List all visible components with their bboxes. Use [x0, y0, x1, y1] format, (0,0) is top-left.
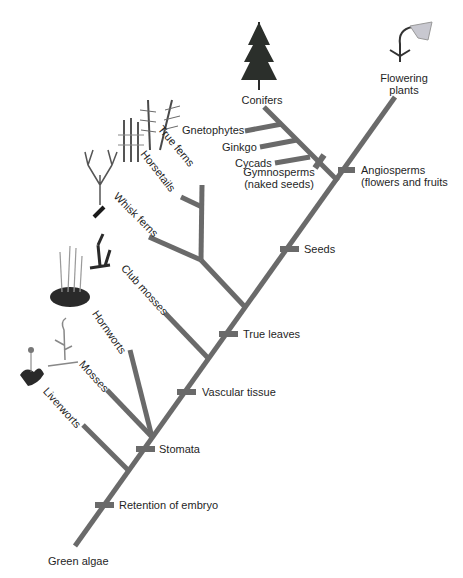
label-angiosperms: Angiosperms (flowers and fruits: [361, 164, 448, 188]
label-green-algae: Green algae: [48, 555, 109, 567]
label-angiosperms-line1: Angiosperms: [361, 164, 448, 176]
branch-gnetophytes: [245, 124, 282, 131]
branch-cycads: [275, 157, 310, 163]
label-gnetophytes: Gnetophytes: [182, 124, 244, 136]
label-angiosperms-line2: (flowers and fruits: [361, 176, 448, 188]
branch-liverworts: [83, 425, 128, 470]
branch-whisk-ferns: [149, 237, 201, 260]
label-vascular-tissue: Vascular tissue: [202, 386, 276, 398]
label-flowering-plants-line2: plants: [378, 84, 430, 96]
conifer-illustration-icon: [241, 22, 277, 90]
label-ginkgo: Ginkgo: [222, 141, 257, 153]
label-retention-of-embryo: Retention of embryo: [119, 499, 218, 511]
label-gymnosperms: Gymnosperms (naked seeds): [239, 166, 319, 190]
branch-ferns-clade: [201, 260, 245, 307]
flower-illustration-icon: [390, 22, 432, 62]
hornwort-illustration-icon: [50, 246, 90, 307]
label-seeds: Seeds: [304, 243, 335, 255]
label-gymnosperms-line2: (naked seeds): [239, 178, 319, 190]
branch-true-ferns: [201, 185, 202, 260]
label-flowering-plants-line1: Flowering: [378, 72, 430, 84]
whisk-fern-illustration-icon: [85, 150, 117, 217]
liverwort-illustration-icon: [20, 347, 44, 386]
label-stomata: Stomata: [159, 443, 200, 455]
label-gymnosperms-line1: Gymnosperms: [239, 166, 319, 178]
label-flowering-plants: Flowering plants: [378, 72, 430, 96]
branch-ginkgo: [260, 140, 297, 147]
label-true-leaves: True leaves: [243, 328, 300, 340]
branch-club-mosses: [165, 313, 208, 358]
moss-illustration-icon: [48, 318, 78, 366]
club-moss-illustration-icon: [90, 234, 110, 268]
branch-horsetails: [181, 197, 202, 207]
label-conifers: Conifers: [240, 94, 284, 106]
